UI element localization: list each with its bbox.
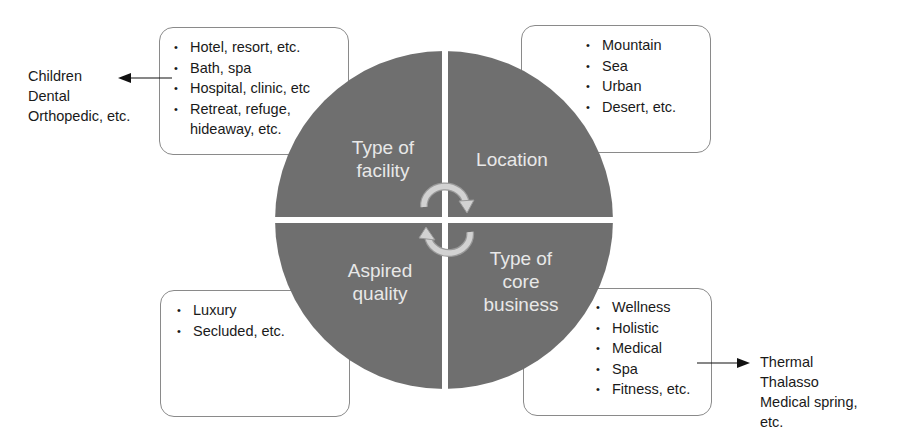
quadrant-label-type-of-facility: Type of facility — [333, 136, 433, 182]
quadrant-label-type-of-core-business: Type of core business — [466, 247, 576, 316]
arrow-right-icon — [697, 358, 750, 368]
quadrant-label-location: Location — [462, 148, 562, 171]
quadrant-top-left — [270, 45, 442, 217]
spa-types-callout: Thermal Thalasso Medical spring, etc. — [760, 352, 858, 432]
quadrant-top-right — [448, 45, 618, 217]
facility-specialties-callout: Children Dental Orthopedic, etc. — [28, 66, 130, 126]
quadrant-bottom-left — [270, 223, 442, 393]
quadrant-label-aspired-quality: Aspired quality — [330, 259, 430, 305]
